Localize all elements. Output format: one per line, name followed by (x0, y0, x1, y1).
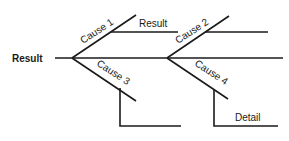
branch-cause-1: Cause 1 Result (72, 15, 178, 58)
branch-cause-3: Cause 3 (72, 57, 181, 126)
cause-4-sub-label: Detail (235, 112, 261, 123)
fishbone-diagram: Result Cause 1 Result Cause 2 Cause 3 Ca… (0, 0, 289, 141)
cause-3-label: Cause 3 (95, 57, 133, 87)
cause-3-sub-line (120, 88, 181, 126)
diagram-svg: Result Cause 1 Result Cause 2 Cause 3 Ca… (0, 0, 289, 141)
cause-4-label: Cause 4 (193, 57, 231, 87)
cause-1-sub-label: Result (139, 18, 168, 29)
branch-cause-2: Cause 2 (167, 16, 268, 58)
branch-cause-4: Cause 4 Detail (167, 57, 278, 126)
effect-label: Result (12, 53, 43, 64)
